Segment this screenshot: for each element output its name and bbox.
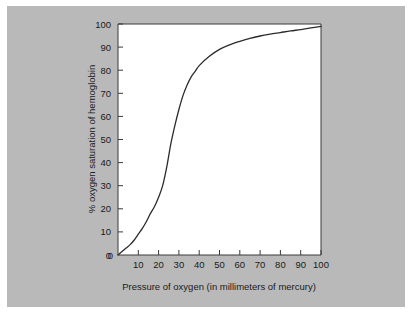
x-tick-label: 50 <box>214 259 225 270</box>
x-tick-label: 30 <box>174 259 185 270</box>
oxygen-dissociation-chart: 0102030405060708090100 01020304050607080… <box>7 6 405 307</box>
y-tick-label: 100 <box>95 19 111 30</box>
y-tick-labels-group: 0102030405060708090100 <box>95 19 111 261</box>
y-tick-label: 10 <box>100 226 111 237</box>
x-tick-label: 10 <box>133 259 144 270</box>
x-tick-label: 70 <box>255 259 266 270</box>
plot-background <box>118 24 321 255</box>
y-tick-label: 50 <box>100 134 111 145</box>
x-axis-title: Pressure of oxygen (in millimeters of me… <box>122 281 316 292</box>
figure-frame: 0102030405060708090100 01020304050607080… <box>7 6 405 307</box>
x-tick-label: 90 <box>295 259 306 270</box>
x-tick-label: 40 <box>194 259 205 270</box>
y-tick-label: 60 <box>100 111 111 122</box>
x-tick-label: 60 <box>235 259 246 270</box>
y-tick-label: 30 <box>100 180 111 191</box>
x-tick-label: 100 <box>313 259 329 270</box>
y-tick-label: 80 <box>100 65 111 76</box>
chart-svg: 0102030405060708090100 01020304050607080… <box>7 6 405 307</box>
y-tick-label: 90 <box>100 42 111 53</box>
y-tick-label: 70 <box>100 88 111 99</box>
x-tick-label: 80 <box>275 259 286 270</box>
y-tick-label: 40 <box>100 157 111 168</box>
x-tick-label: 20 <box>153 259 164 270</box>
y-tick-label: 0 <box>106 250 111 261</box>
y-tick-label: 20 <box>100 203 111 214</box>
y-axis-title: % oxygen saturation of hemoglobin <box>86 65 97 213</box>
